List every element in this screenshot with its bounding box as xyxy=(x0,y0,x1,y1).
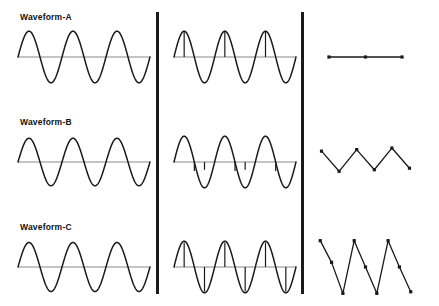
sample-marker xyxy=(327,55,330,58)
sample-marker xyxy=(338,170,341,173)
waveform-a-continuous xyxy=(18,26,150,88)
sample-marker xyxy=(400,55,403,58)
sample-marker xyxy=(373,168,376,171)
chart-waveform-b-sampled xyxy=(174,131,296,193)
row-label-waveform-c: Waveform-C xyxy=(20,222,72,232)
waveform-a-sampled xyxy=(174,26,296,88)
waveform-c-sampled xyxy=(174,236,296,298)
chart-waveform-a-discrete xyxy=(318,26,413,88)
chart-waveform-a-sampled xyxy=(174,26,296,88)
sample-marker xyxy=(319,239,322,242)
chart-waveform-b-continuous xyxy=(18,131,150,193)
sample-marker xyxy=(390,146,393,149)
sample-marker xyxy=(375,292,378,295)
sample-marker xyxy=(353,239,356,242)
chart-waveform-a-continuous xyxy=(18,26,150,88)
chart-waveform-c-continuous xyxy=(18,236,150,298)
waveform-figure: Waveform-A Waveform-B Waveform-C xyxy=(0,0,439,306)
sample-marker xyxy=(398,265,401,268)
chart-waveform-b-discrete xyxy=(318,131,413,193)
sample-marker xyxy=(387,239,390,242)
row-label-waveform-b: Waveform-B xyxy=(20,117,72,127)
column-divider-2 xyxy=(301,12,304,294)
sample-marker xyxy=(355,148,358,151)
sample-marker xyxy=(341,292,344,295)
sample-marker xyxy=(364,265,367,268)
sample-connector-line xyxy=(322,148,410,171)
sample-marker xyxy=(409,290,412,293)
sample-marker xyxy=(320,150,323,153)
waveform-a-discrete xyxy=(318,26,413,88)
sample-marker xyxy=(408,167,411,170)
chart-waveform-c-sampled xyxy=(174,236,296,298)
row-label-waveform-a: Waveform-A xyxy=(20,12,72,22)
column-divider-1 xyxy=(156,12,159,294)
chart-waveform-c-discrete xyxy=(318,236,413,298)
sample-marker xyxy=(364,55,367,58)
waveform-c-discrete xyxy=(318,236,413,298)
sample-marker xyxy=(330,261,333,264)
waveform-c-continuous xyxy=(18,236,150,298)
waveform-b-sampled xyxy=(174,131,296,193)
waveform-b-discrete xyxy=(318,131,413,193)
waveform-b-continuous xyxy=(18,131,150,193)
